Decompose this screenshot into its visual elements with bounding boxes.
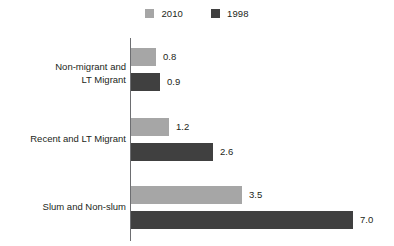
bar-2010-slum [131, 186, 242, 204]
category-label-slum-and-non-slum: Slum and Non-slum [6, 201, 126, 214]
bar-row-1998-non-migrant: 0.9 [131, 73, 180, 91]
plot-area: Non-migrant and LT Migrant 0.8 0.9 Recen… [0, 0, 394, 246]
bar-1998-non-migrant [131, 73, 160, 91]
bar-row-2010-non-migrant: 0.8 [131, 48, 176, 66]
category-label-recent-and-lt-migrant: Recent and LT Migrant [6, 133, 126, 146]
bar-row-1998-recent: 2.6 [131, 143, 233, 161]
bar-row-2010-recent: 1.2 [131, 118, 189, 136]
bar-value-2010-slum: 3.5 [249, 190, 262, 200]
bar-1998-slum [131, 211, 353, 229]
bar-row-2010-slum: 3.5 [131, 186, 262, 204]
bar-value-1998-slum: 7.0 [360, 215, 373, 225]
bar-row-1998-slum: 7.0 [131, 211, 373, 229]
bar-2010-recent [131, 118, 169, 136]
bar-chart: 2010 1998 Non-migrant and LT Migrant 0.8… [0, 0, 394, 246]
bar-value-2010-non-migrant: 0.8 [163, 52, 176, 62]
bar-1998-recent [131, 143, 213, 161]
bar-value-1998-non-migrant: 0.9 [167, 77, 180, 87]
category-label-non-migrant-and-lt-migrant: Non-migrant and LT Migrant [6, 61, 126, 86]
category-label-line1: Non-migrant and [55, 61, 126, 72]
category-label-line1: Slum and Non-slum [43, 201, 126, 212]
category-label-line1: Recent and LT Migrant [30, 133, 126, 144]
bar-2010-non-migrant [131, 48, 156, 66]
bar-value-2010-recent: 1.2 [176, 122, 189, 132]
bar-value-1998-recent: 2.6 [220, 147, 233, 157]
category-label-line2: LT Migrant [81, 74, 126, 85]
